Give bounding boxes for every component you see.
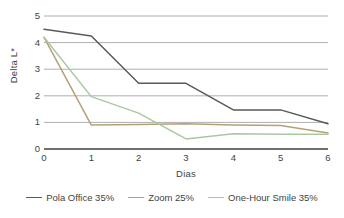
- y-axis-tick-label: 4: [24, 38, 40, 48]
- legend-line-swatch-icon: [128, 197, 144, 198]
- x-axis-tick-label: 6: [316, 152, 340, 163]
- line-chart: Delta L* 012345 0123456 Dias Pola Office…: [0, 0, 344, 218]
- x-axis-title: Dias: [44, 168, 328, 179]
- x-axis-tick-label: 2: [127, 152, 151, 163]
- y-axis-tick-label: 5: [24, 11, 40, 21]
- plot-area: [44, 16, 328, 149]
- series-line-1: [44, 37, 328, 133]
- y-axis-tick-label: 2: [24, 91, 40, 101]
- x-axis-tick-label: 3: [174, 152, 198, 163]
- y-axis-tick-label: 3: [24, 64, 40, 74]
- legend-line-swatch-icon: [208, 197, 224, 198]
- x-axis-tick-labels: 0123456: [44, 152, 328, 166]
- y-axis-tick-labels: 012345: [22, 16, 40, 149]
- x-axis-tick-label: 5: [269, 152, 293, 163]
- x-axis-tick-label: 4: [221, 152, 245, 163]
- y-axis-title: Delta L*: [8, 31, 19, 101]
- data-series-group: [44, 16, 328, 149]
- x-axis-tick-label: 0: [32, 152, 56, 163]
- legend-label: Zoom 25%: [148, 192, 194, 203]
- legend-item-2[interactable]: One-Hour Smile 35%: [208, 192, 318, 203]
- legend-label: Pola Office 35%: [46, 192, 114, 203]
- y-axis-tick-label: 1: [24, 117, 40, 127]
- legend-item-0[interactable]: Pola Office 35%: [26, 192, 114, 203]
- legend-label: One-Hour Smile 35%: [228, 192, 318, 203]
- series-line-0: [44, 29, 328, 123]
- x-axis-tick-label: 1: [79, 152, 103, 163]
- legend-item-1[interactable]: Zoom 25%: [128, 192, 194, 203]
- chart-legend: Pola Office 35%Zoom 25%One-Hour Smile 35…: [0, 192, 344, 203]
- legend-line-swatch-icon: [26, 197, 42, 198]
